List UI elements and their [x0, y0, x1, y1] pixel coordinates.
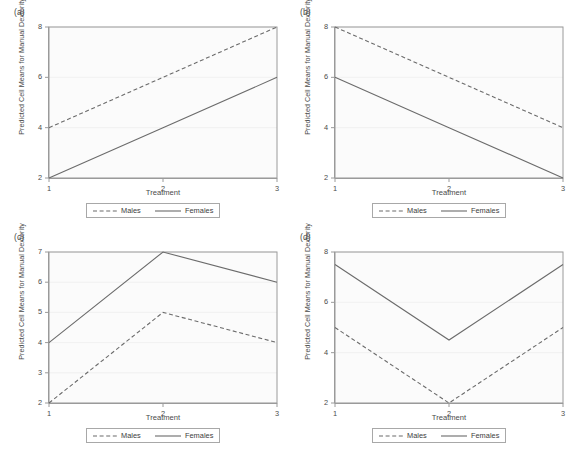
panel-d: (d) Predicted Cell Means for Manual Dext… [286, 225, 572, 450]
legend-label-females: Females [185, 431, 214, 440]
svg-text:4: 4 [38, 338, 42, 347]
legend-label-males: Males [407, 206, 427, 215]
svg-text:4: 4 [324, 348, 328, 357]
svg-text:2: 2 [324, 398, 328, 407]
svg-text:8: 8 [324, 247, 328, 256]
svg-text:8: 8 [324, 22, 328, 31]
svg-text:6: 6 [38, 277, 42, 286]
legend-b: MalesFemales [372, 203, 506, 218]
svg-text:2: 2 [324, 173, 328, 182]
svg-text:3: 3 [38, 368, 42, 377]
legend-a: MalesFemales [86, 203, 220, 218]
svg-text:6: 6 [324, 72, 328, 81]
x-axis-label-c: Treatment [49, 413, 277, 422]
legend-d: MalesFemales [372, 428, 506, 443]
x-axis-label-d: Treatment [335, 413, 563, 422]
svg-text:5: 5 [38, 307, 42, 316]
svg-text:6: 6 [38, 72, 42, 81]
legend-label-males: Males [121, 431, 141, 440]
svg-text:8: 8 [38, 22, 42, 31]
svg-text:4: 4 [324, 123, 328, 132]
x-axis-label-b: Treatment [335, 188, 563, 197]
legend-content-b: MalesFemales [373, 204, 505, 217]
svg-text:6: 6 [324, 297, 328, 306]
svg-text:7: 7 [38, 247, 42, 256]
legend-label-males: Males [407, 431, 427, 440]
legend-content-d: MalesFemales [373, 429, 505, 442]
legend-label-males: Males [121, 206, 141, 215]
legend-content-c: MalesFemales [87, 429, 219, 442]
panel-a: (a) Predicted Cell Means for Manual Dext… [0, 0, 286, 225]
x-axis-label-a: Treatment [49, 188, 277, 197]
panel-c: (c) Predicted Cell Means for Manual Dext… [0, 225, 286, 450]
svg-text:2: 2 [38, 398, 42, 407]
svg-text:4: 4 [38, 123, 42, 132]
panel-b: (b) Predicted Cell Means for Manual Dext… [286, 0, 572, 225]
legend-c: MalesFemales [86, 428, 220, 443]
legend-label-females: Females [471, 206, 500, 215]
legend-label-females: Females [471, 431, 500, 440]
svg-text:2: 2 [38, 173, 42, 182]
legend-content-a: MalesFemales [87, 204, 219, 217]
interaction-plot-figure: (a) Predicted Cell Means for Manual Dext… [0, 0, 573, 450]
legend-label-females: Females [185, 206, 214, 215]
